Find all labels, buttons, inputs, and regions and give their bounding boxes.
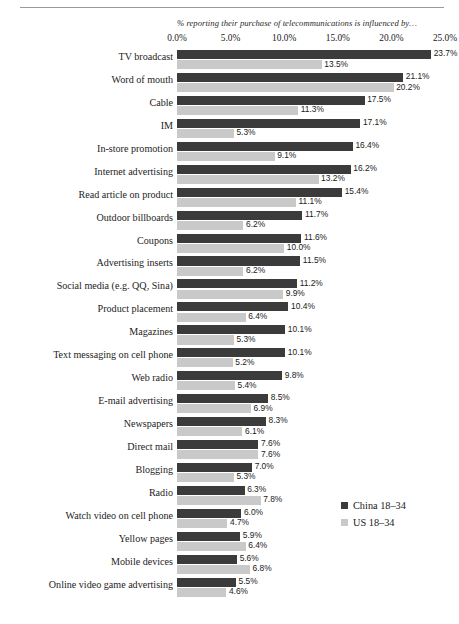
- bar-value-label-us: 4.6%: [226, 587, 248, 597]
- bar-us[interactable]: [177, 358, 233, 367]
- bar-china[interactable]: [177, 371, 282, 380]
- row-bars: 17.1%5.3%: [177, 118, 445, 141]
- bar-value-label-us: 5.2%: [233, 358, 255, 368]
- bar-value-label-china: 17.1%: [360, 118, 386, 128]
- bar-line-us: 13.5%: [177, 60, 445, 69]
- bar-china[interactable]: [177, 555, 237, 564]
- chart-row: IM17.1%5.3%: [0, 118, 459, 141]
- row-bars: 15.4%11.1%: [177, 187, 445, 210]
- chart-row: TV broadcast23.7%13.5%: [0, 49, 459, 72]
- bar-us[interactable]: [177, 565, 250, 574]
- bar-us[interactable]: [177, 267, 243, 276]
- bar-value-label-china: 16.4%: [353, 141, 379, 151]
- chart-row: Read article on product15.4%11.1%: [0, 187, 459, 210]
- bar-china[interactable]: [177, 325, 285, 334]
- bar-us[interactable]: [177, 83, 394, 92]
- bar-line-china: 11.6%: [177, 234, 445, 243]
- row-bars: 10.1%5.3%: [177, 324, 445, 347]
- bar-line-us: 5.4%: [177, 381, 445, 390]
- bar-us[interactable]: [177, 221, 243, 230]
- bar-us[interactable]: [177, 152, 275, 161]
- bar-us[interactable]: [177, 381, 235, 390]
- bar-us[interactable]: [177, 106, 298, 115]
- bar-line-china: 23.7%: [177, 50, 445, 59]
- row-bars: 10.1%5.2%: [177, 347, 445, 370]
- legend-label: US 18–34: [353, 517, 394, 528]
- bar-us[interactable]: [177, 588, 226, 597]
- bar-china[interactable]: [177, 142, 353, 151]
- legend-item-us[interactable]: US 18–34: [341, 515, 406, 529]
- bar-china[interactable]: [177, 578, 236, 587]
- bar-value-label-us: 7.8%: [261, 495, 283, 505]
- bar-line-us: 11.3%: [177, 106, 445, 115]
- bar-value-label-us: 6.4%: [246, 541, 268, 551]
- row-bars: 5.5%4.6%: [177, 577, 445, 600]
- bar-value-label-china: 16.2%: [351, 164, 377, 174]
- bar-line-us: 5.3%: [177, 473, 445, 482]
- bar-line-us: 6.4%: [177, 313, 445, 322]
- category-label: Online video game advertising: [0, 579, 173, 591]
- bar-line-china: 21.1%: [177, 73, 445, 82]
- bar-china[interactable]: [177, 96, 365, 105]
- bar-china[interactable]: [177, 394, 268, 403]
- bar-us[interactable]: [177, 175, 319, 184]
- bar-china[interactable]: [177, 440, 258, 449]
- bar-us[interactable]: [177, 244, 284, 253]
- bar-line-us: 9.9%: [177, 290, 445, 299]
- bar-us[interactable]: [177, 542, 246, 551]
- chart-row: E-mail advertising8.5%6.9%: [0, 393, 459, 416]
- chart-row: Product placement10.4%6.4%: [0, 301, 459, 324]
- bar-china[interactable]: [177, 234, 301, 243]
- bar-value-label-us: 5.3%: [234, 128, 256, 138]
- bar-line-us: 20.2%: [177, 83, 445, 92]
- chart-row: Magazines10.1%5.3%: [0, 324, 459, 347]
- bar-value-label-us: 10.0%: [284, 243, 310, 253]
- bar-value-label-us: 4.7%: [227, 518, 249, 528]
- row-bars: 5.9%6.4%: [177, 531, 445, 554]
- category-label: Read article on product: [0, 189, 173, 201]
- bar-value-label-china: 9.8%: [282, 371, 304, 381]
- bar-china[interactable]: [177, 348, 285, 357]
- bar-china[interactable]: [177, 73, 403, 82]
- bar-value-label-china: 11.7%: [302, 210, 328, 220]
- row-bars: 9.8%5.4%: [177, 370, 445, 393]
- bar-us[interactable]: [177, 450, 258, 459]
- row-bars: 16.4%9.1%: [177, 141, 445, 164]
- bar-us[interactable]: [177, 427, 242, 436]
- bar-us[interactable]: [177, 290, 283, 299]
- bar-china[interactable]: [177, 417, 266, 426]
- bar-china[interactable]: [177, 256, 300, 265]
- bar-us[interactable]: [177, 335, 234, 344]
- bar-china[interactable]: [177, 279, 297, 288]
- bar-line-us: 5.3%: [177, 129, 445, 138]
- bar-us[interactable]: [177, 519, 227, 528]
- bar-china[interactable]: [177, 211, 302, 220]
- category-label: TV broadcast: [0, 51, 173, 63]
- x-axis-tick-labels: 0.0%5.0%10.0%15.0%20.0%25.0%: [177, 33, 445, 46]
- row-bars: 7.0%5.3%: [177, 462, 445, 485]
- bar-value-label-us: 6.4%: [246, 312, 268, 322]
- chart-row: Web radio9.8%5.4%: [0, 370, 459, 393]
- bar-us[interactable]: [177, 313, 246, 322]
- bar-us[interactable]: [177, 496, 261, 505]
- bar-china[interactable]: [177, 532, 240, 541]
- legend-item-china[interactable]: China 18–34: [341, 498, 406, 512]
- top-divider: [20, 7, 444, 8]
- bar-us[interactable]: [177, 60, 322, 69]
- x-axis-tick-1: 5.0%: [221, 33, 241, 43]
- x-axis-tick-4: 20.0%: [379, 33, 403, 43]
- bar-us[interactable]: [177, 129, 234, 138]
- bar-us[interactable]: [177, 198, 296, 207]
- bar-china[interactable]: [177, 50, 431, 59]
- category-label: Coupons: [0, 235, 173, 247]
- bar-line-us: 4.6%: [177, 588, 445, 597]
- bar-value-label-china: 11.5%: [300, 256, 326, 266]
- bar-line-us: 6.2%: [177, 267, 445, 276]
- bar-china[interactable]: [177, 119, 360, 128]
- bar-china[interactable]: [177, 302, 288, 311]
- x-axis-tick-0: 0.0%: [167, 33, 187, 43]
- legend-swatch-china: [341, 502, 348, 509]
- bar-china[interactable]: [177, 486, 245, 495]
- bar-us[interactable]: [177, 404, 251, 413]
- bar-us[interactable]: [177, 473, 234, 482]
